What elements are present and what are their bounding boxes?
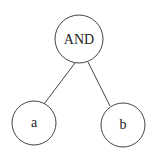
node-and: AND [55,15,103,63]
diagram-canvas: AND a b [0,0,150,157]
node-a: a [12,101,56,145]
node-and-label: AND [64,32,94,47]
node-b: b [101,103,145,147]
edge-and-a [44,63,75,104]
edge-and-b [88,62,110,106]
node-b-label: b [120,117,127,132]
node-a-label: a [31,115,38,130]
tree-diagram: AND a b [0,0,150,157]
